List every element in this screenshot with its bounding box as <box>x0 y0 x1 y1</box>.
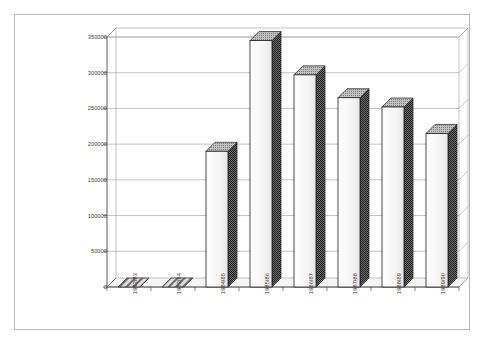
chart-right-wall <box>459 28 468 287</box>
bar-front-face <box>294 75 316 287</box>
bar <box>338 89 369 287</box>
bar-side-face <box>360 89 369 287</box>
bar <box>426 124 457 287</box>
bar-front-face <box>426 133 448 287</box>
y-axis-tick-label: 150000 <box>88 177 107 183</box>
y-axis-tick-label: 200000 <box>88 141 107 147</box>
bar-front-face <box>382 107 404 287</box>
y-axis-tick-label: 100000 <box>88 213 107 219</box>
y-axis-tick-label: 250000 <box>88 105 107 111</box>
bar <box>382 98 413 287</box>
bar-chart: 0500001000001500002000002500003000003500… <box>15 15 469 329</box>
bar-side-face <box>404 98 413 287</box>
y-axis-tick-label: 0 <box>104 284 107 290</box>
bar-side-face <box>448 124 457 287</box>
y-axis-tick-label: 300000 <box>88 70 107 76</box>
bar-side-face <box>316 66 325 287</box>
bar <box>294 66 325 287</box>
bar-front-face <box>338 98 360 287</box>
bar-front-face <box>250 41 272 287</box>
y-axis-tick-label: 350000 <box>88 34 107 40</box>
chart-floor <box>107 278 468 287</box>
y-axis-tick-labels: 0500001000001500002000002500003000003500… <box>61 15 107 331</box>
bar-side-face <box>228 142 237 287</box>
bar <box>250 32 281 287</box>
figure-frame: 0500001000001500002000002500003000003500… <box>14 14 470 330</box>
bar <box>206 142 237 287</box>
bar-side-face <box>272 32 281 287</box>
y-axis-tick-label: 50000 <box>91 248 107 254</box>
chart-ceiling <box>107 28 468 37</box>
bar-front-face <box>206 151 228 287</box>
